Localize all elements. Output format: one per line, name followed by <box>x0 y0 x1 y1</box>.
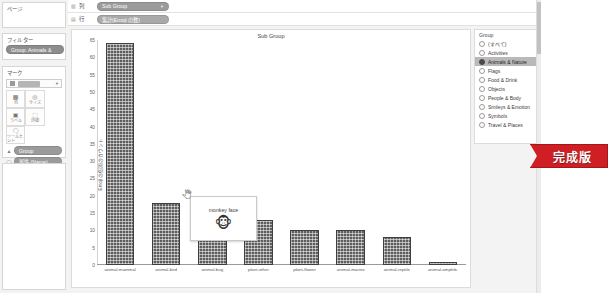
bar[interactable] <box>152 203 181 265</box>
columns-pill-sub-group[interactable]: Sub Group ▾ <box>97 2 169 11</box>
x-axis-label: animal-bug <box>189 267 235 279</box>
radio-icon[interactable] <box>479 59 485 65</box>
marks-tooltip-button[interactable]: 🗨 ツールヒント <box>6 126 25 144</box>
legend-item[interactable]: Travel & Places <box>475 120 537 129</box>
chart-canvas: Sub Group Emoji の個別のカウント 051015202530354… <box>71 29 471 288</box>
legend-item-label: Activities <box>488 50 508 56</box>
legend-item[interactable]: Symbols <box>475 111 537 120</box>
marks-color-label: 色 <box>14 101 18 105</box>
chart-title: Sub Group <box>72 30 470 39</box>
x-axis-label: animal-reptile <box>374 267 420 279</box>
rows-icon: ▤ <box>71 16 79 22</box>
legend-item-label: Animals & Nature <box>488 59 527 65</box>
legend-item[interactable]: Food & Drink <box>475 75 537 84</box>
legend-item-label: Travel & Places <box>488 122 523 128</box>
legend-item[interactable]: Animals & Nature <box>475 57 537 66</box>
bar[interactable] <box>290 230 319 265</box>
y-axis-tick: 55 <box>90 72 95 77</box>
bar-cell <box>282 40 328 265</box>
x-axis-label: plant-other <box>235 267 281 279</box>
legend-item[interactable]: (すべて) <box>475 39 537 48</box>
y-axis-tick: 20 <box>90 193 95 198</box>
y-axis-tick: 40 <box>90 124 95 129</box>
legend-item-label: Smileys & Emotion <box>488 104 530 110</box>
bar[interactable] <box>383 237 412 265</box>
x-axis-label: plant-flower <box>282 267 328 279</box>
bar[interactable] <box>429 262 458 265</box>
mark-encoding-buttons: ▩ 色 ◎ サイズ ▣ ラベル ⬚ 詳細 🗨 ツールヒント <box>6 90 62 144</box>
bar-cell <box>374 40 420 265</box>
left-panel-spacer <box>2 163 66 290</box>
rows-pill-emoji-count[interactable]: 集計(Emoji の数) <box>97 15 169 24</box>
marks-color-button[interactable]: ▩ 色 <box>6 90 25 108</box>
legend-item-label: Food & Drink <box>488 77 517 83</box>
radio-icon[interactable] <box>479 77 485 83</box>
bar[interactable] <box>106 43 135 265</box>
scrollbar-thumb[interactable] <box>537 2 541 54</box>
legend-item-label: (すべて) <box>488 40 506 47</box>
legend-item[interactable]: Smileys & Emotion <box>475 102 537 111</box>
rows-shelf-label: 行 <box>79 15 97 23</box>
columns-icon: ▥ <box>71 3 79 9</box>
columns-shelf[interactable]: ▥ 列 Sub Group ▾ <box>68 0 541 13</box>
y-axis-tick: 0 <box>92 263 95 268</box>
chevron-down-icon: ▾ <box>156 4 163 9</box>
color-icon: ▩ <box>13 94 19 100</box>
tooltip-title: monkey face <box>209 207 238 213</box>
legend-item[interactable]: People & Body <box>475 93 537 102</box>
marks-size-label: サイズ <box>29 101 41 105</box>
radio-icon[interactable] <box>479 41 485 47</box>
filters-card-title: フィルター <box>3 34 65 45</box>
y-axis-tick: 5 <box>92 245 95 250</box>
bar[interactable] <box>336 230 365 265</box>
legend-item-label: Objects <box>488 86 505 92</box>
radio-icon[interactable] <box>479 50 485 56</box>
y-axis-ticks: 05101520253035404550556065 <box>80 40 96 265</box>
y-axis-tick: 30 <box>90 159 95 164</box>
legend-item-label: People & Body <box>488 95 521 101</box>
pages-card: ページ <box>2 2 66 28</box>
y-axis-tick: 45 <box>90 107 95 112</box>
filters-pill-row: Group: Animals & <box>3 45 65 56</box>
rows-pill-label: 集計(Emoji の数) <box>102 16 140 23</box>
y-axis-tick: 35 <box>90 141 95 146</box>
columns-shelf-label: 列 <box>79 2 97 10</box>
bar-cell <box>97 40 143 265</box>
radio-icon[interactable] <box>479 86 485 92</box>
monkey-face-icon: 🐵 <box>215 215 232 230</box>
legend-item[interactable]: Activities <box>475 48 537 57</box>
marks-pill-group[interactable]: Group <box>14 146 62 155</box>
worksheet-area: ▥ 列 Sub Group ▾ ▤ 行 集計(Emoji の数) Sub Gro… <box>68 0 541 293</box>
mark-type-selector[interactable]: 自動 ▾ <box>6 79 62 88</box>
radio-icon[interactable] <box>479 113 485 119</box>
marks-size-button[interactable]: ◎ サイズ <box>25 90 44 108</box>
legend-item-list: (すべて)ActivitiesAnimals & NatureFlagsFood… <box>475 39 537 129</box>
radio-icon[interactable] <box>479 104 485 110</box>
marks-detail-button[interactable]: ⬚ 詳細 <box>25 108 44 126</box>
color-chip-icon: ▲ <box>6 148 12 154</box>
filter-pill-group[interactable]: Group: Animals & <box>6 45 64 54</box>
marks-label-button[interactable]: ▣ ラベル <box>6 108 25 126</box>
legend-item[interactable]: Flags <box>475 66 537 75</box>
marks-card-title: マーク <box>3 67 65 78</box>
x-axis-labels: animal-mammalanimal-birdanimal-bugplant-… <box>97 267 466 279</box>
legend-item-label: Symbols <box>488 113 507 119</box>
legend-item[interactable]: Objects <box>475 84 537 93</box>
detail-icon: ⬚ <box>32 112 38 118</box>
legend-item-label: Flags <box>488 68 500 74</box>
radio-icon[interactable] <box>479 68 485 74</box>
radio-icon[interactable] <box>479 122 485 128</box>
radio-icon[interactable] <box>479 95 485 101</box>
bar-cell <box>328 40 374 265</box>
bar-series <box>97 40 466 265</box>
status-badge-label: 完成版 <box>547 148 592 165</box>
x-axis-label: animal-bird <box>143 267 189 279</box>
bar-cell <box>143 40 189 265</box>
marks-detail-label: 詳細 <box>31 119 39 123</box>
y-axis-tick: 65 <box>90 38 95 43</box>
rows-shelf[interactable]: ▤ 行 集計(Emoji の数) <box>68 13 541 26</box>
marks-card: マーク 自動 ▾ ▩ 色 ◎ サイズ ▣ ラベル <box>2 66 66 158</box>
left-panel: ページ フィルター Group: Animals & マーク 自動 ▾ ▩ 色 <box>0 0 68 293</box>
filters-card: フィルター Group: Animals & <box>2 33 66 60</box>
